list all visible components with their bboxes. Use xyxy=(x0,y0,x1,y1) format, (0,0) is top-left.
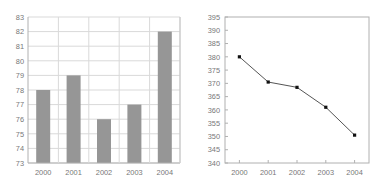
bar-chart-x-axis-labels: 20002001200220032004 xyxy=(35,168,173,177)
y-tick-label: 355 xyxy=(208,119,220,128)
line-chart-plot-border xyxy=(225,17,369,163)
y-tick-label: 77 xyxy=(16,100,24,109)
y-tick-label: 73 xyxy=(16,159,24,168)
bar xyxy=(36,90,50,163)
x-tick-label: 2001 xyxy=(260,168,276,177)
x-tick-label: 2004 xyxy=(157,168,173,177)
x-tick-label: 2000 xyxy=(231,168,247,177)
y-tick-label: 74 xyxy=(16,144,24,153)
y-tick-label: 340 xyxy=(208,159,220,168)
data-point-marker xyxy=(295,86,298,89)
x-tick-label: 2003 xyxy=(126,168,142,177)
y-tick-label: 365 xyxy=(208,92,220,101)
y-tick-label: 76 xyxy=(16,115,24,124)
y-tick-label: 82 xyxy=(16,27,24,36)
bar xyxy=(67,75,81,163)
plot-border-box xyxy=(225,17,369,163)
line-chart-panel: 340345350355360365370375380385390395 200… xyxy=(193,0,386,191)
line-chart-svg: 340345350355360365370375380385390395 200… xyxy=(193,0,386,191)
x-tick-label: 2002 xyxy=(289,168,305,177)
line-chart-markers xyxy=(238,55,356,137)
bar xyxy=(97,119,111,163)
bar xyxy=(127,105,141,163)
x-tick-label: 2003 xyxy=(318,168,334,177)
data-point-marker xyxy=(353,134,356,137)
x-tick-label: 2002 xyxy=(96,168,112,177)
bar-chart-y-axis-labels: 7374757677787980818283 xyxy=(16,13,24,168)
y-tick-label: 360 xyxy=(208,106,220,115)
data-point-marker xyxy=(267,80,270,83)
y-tick-label: 375 xyxy=(208,66,220,75)
bar-chart-bars xyxy=(36,32,172,163)
data-point-marker xyxy=(324,106,327,109)
x-tick-label: 2004 xyxy=(346,168,362,177)
x-tick-label: 2001 xyxy=(65,168,81,177)
y-tick-label: 350 xyxy=(208,132,220,141)
y-tick-label: 390 xyxy=(208,26,220,35)
dual-chart-figure: 7374757677787980818283 20002001200220032… xyxy=(0,0,386,191)
bar-chart-panel: 7374757677787980818283 20002001200220032… xyxy=(0,0,193,191)
y-tick-label: 385 xyxy=(208,39,220,48)
line-chart-series xyxy=(239,57,354,135)
data-point-marker xyxy=(238,55,241,58)
y-tick-label: 395 xyxy=(208,13,220,22)
x-tick-label: 2000 xyxy=(35,168,51,177)
line-chart-x-axis-labels: 20002001200220032004 xyxy=(231,168,363,177)
data-line xyxy=(239,57,354,135)
y-tick-label: 380 xyxy=(208,53,220,62)
y-tick-label: 78 xyxy=(16,86,24,95)
y-tick-label: 80 xyxy=(16,57,24,66)
y-tick-label: 370 xyxy=(208,79,220,88)
y-tick-label: 83 xyxy=(16,13,24,22)
bar-chart-svg: 7374757677787980818283 20002001200220032… xyxy=(0,0,193,191)
y-tick-label: 81 xyxy=(16,42,24,51)
y-tick-label: 75 xyxy=(16,130,24,139)
y-tick-label: 79 xyxy=(16,71,24,80)
y-tick-label: 345 xyxy=(208,145,220,154)
bar xyxy=(158,32,172,163)
